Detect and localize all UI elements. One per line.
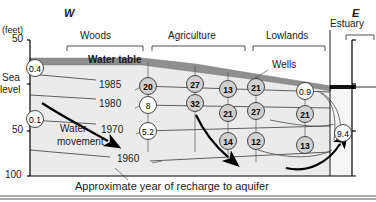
well-value: 32 [190, 99, 200, 109]
well-marker: 9.4 [335, 125, 352, 142]
water-movement-label-line1: Water [60, 124, 86, 134]
recharge-year-1970: 1970 [101, 125, 123, 135]
well-value: 12 [251, 137, 261, 147]
well-marker: 27 [187, 76, 204, 93]
well-marker: 21 [248, 79, 265, 96]
recharge-year-1980: 1980 [99, 99, 121, 109]
well-value: 0.4 [29, 64, 41, 74]
well-marker: 21 [220, 105, 237, 122]
bracket-label-lowlands: Lowlands [266, 31, 308, 41]
hydrogeology-cross-section-figure: 0.40.12085.227321321142127120.921139.4 W… [0, 0, 376, 202]
axis-tick-bottom: 100 [5, 170, 22, 180]
bracket-lowlands [253, 46, 325, 51]
well-marker: 0.4 [27, 60, 44, 77]
well-marker: 32 [187, 95, 204, 112]
recharge-year-1960: 1960 [117, 154, 139, 164]
well-marker: 20 [140, 78, 157, 95]
well-value: 21 [251, 83, 261, 93]
figure-caption: Approximate year of recharge to aquifer [75, 181, 269, 192]
well-value: 21 [223, 109, 233, 119]
well-value: 5.2 [142, 127, 154, 137]
well-value: 21 [300, 110, 310, 120]
well-marker: 21 [297, 106, 314, 123]
well-marker: 0.1 [27, 111, 44, 128]
well-value: 13 [223, 85, 233, 95]
well-value: 8 [146, 101, 151, 111]
axis-tick-mid: 50 [12, 125, 23, 135]
well-marker: 14 [220, 133, 237, 150]
well-value: 0.9 [299, 87, 311, 97]
axis-tick-sealevel-1: Sea [2, 73, 20, 83]
well-marker: 13 [297, 137, 314, 154]
well-value: 0.1 [29, 115, 41, 125]
water-table-label: Water table [88, 55, 142, 65]
bracket-label-agriculture: Agriculture [168, 31, 216, 41]
water-movement-label-line2: movement [57, 137, 104, 147]
well-marker: 27 [248, 103, 265, 120]
well-value: 27 [190, 80, 200, 90]
bracket-label-estuary: Estuary [330, 19, 364, 29]
axis-tick-sealevel-2: level [0, 85, 21, 95]
well-value: 9.4 [337, 129, 349, 139]
well-marker: 8 [140, 97, 157, 114]
wells-label: Wells [272, 60, 296, 70]
well-marker: 12 [248, 133, 265, 150]
estuary-water-surface [330, 85, 376, 89]
well-value: 27 [251, 107, 261, 117]
compass-west-label: W [64, 8, 74, 19]
landuse-brackets [67, 35, 374, 51]
well-value: 14 [223, 137, 233, 147]
well-value: 13 [300, 141, 310, 151]
well-marker: 5.2 [140, 123, 157, 140]
well-marker: 0.9 [297, 83, 314, 100]
well-marker: 13 [220, 81, 237, 98]
figure-rules [0, 196, 376, 199]
bracket-label-woods: Woods [80, 31, 111, 41]
well-value: 20 [143, 82, 153, 92]
axis-tick-top: 50 [12, 34, 23, 44]
recharge-year-1985: 1985 [99, 80, 121, 90]
bracket-woods [67, 46, 143, 51]
bracket-estuary [346, 35, 374, 40]
bracket-agriculture [152, 46, 245, 51]
